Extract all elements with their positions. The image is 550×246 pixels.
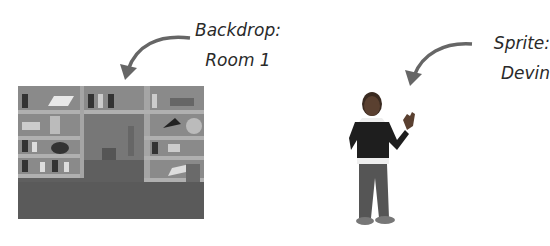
curved-arrow-icon xyxy=(118,32,193,82)
backdrop-label-line2: Room 1 xyxy=(188,45,288,75)
curved-arrow-icon xyxy=(402,40,474,88)
sprite-label-line2: Devin xyxy=(470,58,550,88)
backdrop-room1-image xyxy=(18,86,204,219)
sprite-label-line1: Sprite: xyxy=(470,28,550,58)
backdrop-label: Backdrop: Room 1 xyxy=(188,15,288,75)
sprite-devin-image xyxy=(345,88,415,228)
backdrop-label-line1: Backdrop: xyxy=(188,15,288,45)
sprite-label: Sprite: Devin xyxy=(470,28,550,88)
